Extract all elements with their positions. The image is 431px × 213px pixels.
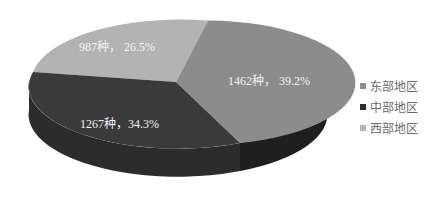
legend-swatch-icon [360,125,366,131]
legend-label: 西部地区 [370,119,418,136]
legend-item-central: 中部地区 [360,96,418,117]
legend-swatch-icon [360,104,366,110]
data-label-east: 1462种， 39.2% [228,71,310,89]
legend-label: 东部地区 [370,77,418,94]
data-label-west: 987种， 26.5% [79,37,155,55]
legend-item-west: 西部地区 [360,117,418,138]
legend-swatch-icon [360,83,366,89]
data-label-central: 1267种，34.3% [80,114,159,132]
legend-label: 中部地区 [370,98,418,115]
legend-item-east: 东部地区 [360,75,418,96]
legend: 东部地区 中部地区 西部地区 [360,75,418,138]
